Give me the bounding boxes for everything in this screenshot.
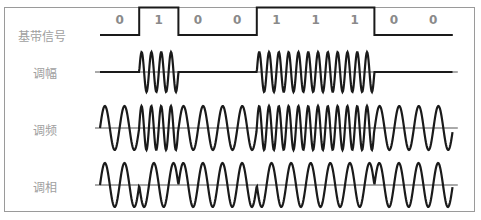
- am-waveform: [100, 52, 453, 92]
- waveform-canvas: [0, 0, 481, 220]
- baseband-signal: [100, 8, 453, 36]
